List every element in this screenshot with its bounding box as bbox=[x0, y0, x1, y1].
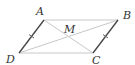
point-label-b: B bbox=[123, 10, 131, 21]
parallelogram-diagram: A B C D M bbox=[0, 0, 135, 65]
point-label-a: A bbox=[36, 6, 44, 17]
point-label-c: C bbox=[92, 55, 100, 65]
point-label-m: M bbox=[64, 24, 75, 35]
point-label-d: D bbox=[6, 54, 15, 65]
